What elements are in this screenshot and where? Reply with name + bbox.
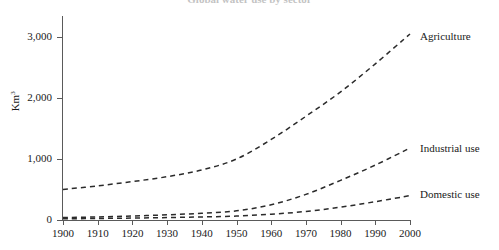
x-tick-mark: [306, 220, 307, 225]
x-tick-mark: [271, 220, 272, 225]
series-label-agriculture: Agriculture: [420, 31, 471, 42]
plot-area: [63, 18, 410, 220]
x-tick-mark: [167, 220, 168, 225]
x-tick-mark: [341, 220, 342, 225]
chart-title: Global water use by sector: [0, 0, 499, 5]
x-tick-mark: [375, 220, 376, 225]
y-axis-label: Km3: [9, 80, 22, 122]
y-tick-mark: [57, 220, 62, 221]
y-axis-label-superscript: 3: [9, 91, 17, 95]
y-tick-label: 1,000: [27, 153, 52, 164]
y-tick-mark: [57, 37, 62, 38]
x-tick-mark: [202, 220, 203, 225]
x-tick-mark: [237, 220, 238, 225]
series-label-domestic: Domestic use: [420, 189, 480, 200]
y-tick-label: 0: [47, 214, 53, 225]
y-axis-label-text: Km: [9, 95, 21, 112]
series-line-domestic-use: [63, 196, 410, 219]
x-tick-mark: [63, 220, 64, 225]
y-tick-label: 3,000: [27, 31, 52, 42]
x-tick-mark: [410, 220, 411, 225]
y-tick-mark: [57, 159, 62, 160]
series-lines-svg: [63, 18, 410, 220]
y-tick-mark: [57, 98, 62, 99]
x-tick-mark: [98, 220, 99, 225]
y-tick-label: 2,000: [27, 92, 52, 103]
series-line-agriculture: [63, 34, 410, 190]
chart-container: Global water use by sector Km3 01,0002,0…: [0, 0, 499, 250]
series-line-industrial-use: [63, 148, 410, 218]
x-tick-mark: [132, 220, 133, 225]
x-tick-label: 2000: [390, 228, 430, 239]
series-label-industrial: Industrial use: [420, 143, 480, 154]
